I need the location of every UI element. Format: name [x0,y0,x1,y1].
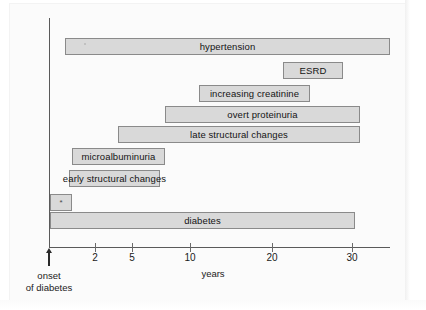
page-speck-artifact [84,43,86,45]
timeline-bar: * [50,194,72,211]
timeline-bar-label: overt proteinuria [227,109,297,120]
horizontal-axis-line [49,247,390,248]
axis-tick-label: 2 [92,252,98,263]
timeline-bar-label: ESRD [300,65,327,76]
axis-tick-label: 10 [184,252,195,263]
timeline-bar-label: increasing creatinine [210,88,299,99]
axis-tick-label: 5 [129,252,135,263]
timeline-bar: overt proteinuria [165,106,360,123]
timeline-bar-label: diabetes [184,215,221,226]
page-edge-right [405,0,410,310]
timeline-bar: hypertension [65,38,390,55]
timeline-bar-label: early structural changes [63,173,166,184]
timeline-bar: late structural changes [118,126,360,143]
axis-tick-mark [352,243,353,252]
timeline-bar: increasing creatinine [199,85,310,102]
axis-tick-mark [132,243,133,252]
axis-tick-mark [272,243,273,252]
onset-caption-line1: onset [26,270,72,282]
axis-tick-mark [95,243,96,252]
x-axis-title: years [201,268,224,279]
timeline-bar: early structural changes [69,170,160,187]
timeline-bar-label: microalbuminuria [82,151,156,162]
timeline-bar: ESRD [283,62,343,79]
timeline-bar-label: late structural changes [190,129,288,140]
axis-tick-label: 20 [266,252,277,263]
timeline-bar: microalbuminuria [72,148,165,165]
timeline-bar: diabetes [50,212,355,229]
axis-tick-label: 30 [346,252,357,263]
timeline-bar-label: * [59,198,62,207]
diabetic-nephropathy-timeline-figure: 25102030 hypertensionESRDincreasing crea… [0,0,426,310]
onset-caption: onset of diabetes [26,270,72,294]
onset-caption-line2: of diabetes [26,282,72,294]
page-edge-bottom [0,300,426,310]
timeline-bar-label: hypertension [200,41,256,52]
axis-tick-mark [190,243,191,252]
onset-arrow-icon [48,252,50,266]
